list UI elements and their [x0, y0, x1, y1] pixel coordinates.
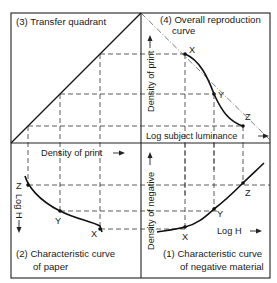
q1-point-y: Y [217, 209, 223, 219]
q4-point-y: Y [218, 90, 224, 100]
q4-y-axis-arrow-icon [148, 35, 153, 48]
q2-point-x: X [91, 229, 97, 239]
q2-y-axis-arrow-icon [17, 220, 22, 233]
q4-title-line1: (4) Overall reproduction [160, 14, 261, 25]
q1-y-axis-label: Density of negative [146, 172, 156, 250]
paper-characteristic-curve [25, 176, 102, 232]
q1-x-axis-label: Log H [217, 226, 242, 236]
q2-x-axis-label: Density of print [41, 148, 103, 158]
q1-title-line2: of negative material [180, 261, 264, 272]
q1-point-x: X [182, 232, 188, 242]
q2-title-line1: (2) Characteristic curve [16, 248, 115, 259]
q4-y-axis-label: Density of print [146, 50, 156, 112]
tone-reproduction-diagram: (3) Transfer quadrant X Y Z (4) Overall … [0, 0, 277, 283]
q3-title: (3) Transfer quadrant [16, 16, 106, 27]
transfer-diagonal [11, 13, 141, 143]
q2-x-axis-arrow-icon [113, 151, 125, 156]
q1-point-z: Z [245, 188, 251, 198]
q4-point-x: X [189, 45, 195, 55]
q2-point-z: Z [16, 181, 22, 191]
q4-x-axis-label: Log subject luminance [146, 131, 237, 141]
q1-x-axis-arrow-icon [250, 229, 262, 234]
q4-point-z: Z [245, 112, 251, 122]
q2-title-line2: of paper [33, 261, 69, 272]
frame [11, 13, 270, 278]
q4-title-line2: curve [172, 25, 195, 36]
q1-y-axis-arrow-icon [148, 152, 153, 165]
q1-title-line1: (1) Characteristic curve [163, 248, 262, 259]
reference-45-line [141, 13, 270, 140]
q2-y-axis-label: Log H [14, 194, 24, 219]
quadrant-3-transfer: (3) Transfer quadrant [11, 13, 243, 229]
quadrant-4-overall: X Y Z (4) Overall reproduction curve Den… [141, 13, 270, 195]
overall-reproduction-curve [185, 54, 243, 126]
q2-y-axis: Log H [14, 194, 24, 233]
q2-point-y: Y [55, 216, 61, 226]
quadrant-1-negative: X Y Z Density of negative Log H (1) Char… [146, 143, 264, 272]
